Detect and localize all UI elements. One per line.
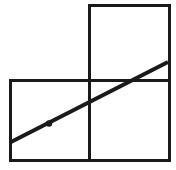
points-group [46, 120, 52, 126]
marked-point [46, 120, 52, 126]
geometry-diagram [0, 0, 176, 170]
figure-canvas [0, 0, 176, 170]
